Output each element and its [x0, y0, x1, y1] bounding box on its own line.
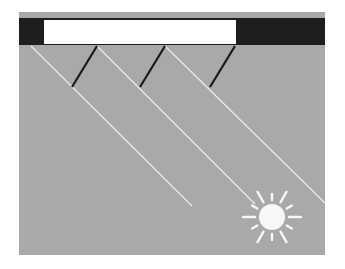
sun-disc — [259, 204, 285, 230]
overhang-shading-diagram — [0, 0, 345, 269]
overhang — [44, 20, 236, 44]
